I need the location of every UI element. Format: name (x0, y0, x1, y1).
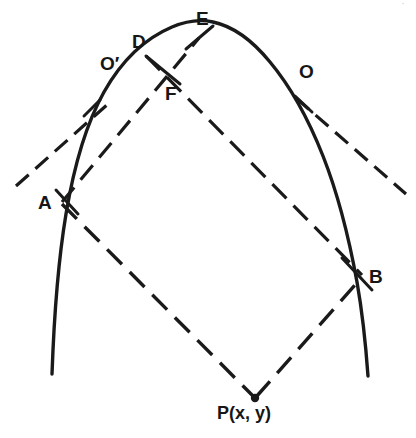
point-label-p-coords: P(x, y) (217, 404, 271, 422)
chord-d-to-b (146, 56, 362, 275)
tick-mark-at-e (186, 26, 213, 49)
page-corner-mark: · (401, 0, 405, 9)
point-label-a: A (38, 193, 52, 212)
figure-canvas: A B D E F O O′ P(x, y) · (0, 0, 416, 438)
point-label-o-prime: O′ (100, 54, 119, 73)
point-label-b: B (369, 267, 383, 286)
point-marker-p (251, 394, 259, 402)
point-label-d: D (132, 32, 146, 51)
point-label-o: O (299, 62, 314, 81)
segment-a-to-p (62, 204, 254, 397)
geometry-svg (0, 0, 416, 438)
segment-p-to-b (256, 277, 362, 397)
point-label-f: F (165, 84, 177, 103)
tangent-line-at-a (16, 104, 108, 186)
point-label-e: E (196, 9, 209, 28)
chord-a-to-e (62, 38, 199, 202)
